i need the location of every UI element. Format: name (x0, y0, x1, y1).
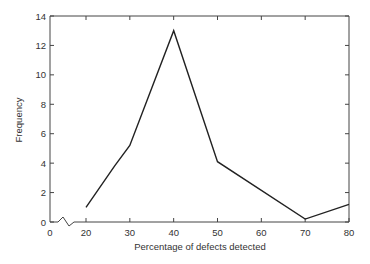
x-tick-label: 80 (344, 227, 355, 238)
frequency-line-chart: 02468101214 020304050607080 Frequency Pe… (0, 0, 370, 264)
y-tick-label: 12 (35, 40, 46, 51)
y-tick-label: 4 (41, 158, 46, 169)
y-tick-label: 8 (41, 99, 46, 110)
x-tick-label: 50 (212, 227, 223, 238)
y-tick-label: 10 (35, 69, 46, 80)
x-tick-label: 70 (300, 227, 311, 238)
y-axis-label: Frequency (13, 97, 24, 142)
x-axis-label: Percentage of defects detected (134, 241, 266, 252)
x-tick-label: 40 (168, 227, 179, 238)
x-axis-ticks: 020304050607080 (47, 16, 354, 238)
y-tick-label: 6 (41, 128, 46, 139)
y-tick-label: 0 (41, 217, 46, 228)
frequency-line (86, 31, 349, 219)
data-series (86, 31, 349, 219)
x-tick-label: 0 (47, 227, 52, 238)
x-tick-label: 60 (256, 227, 267, 238)
y-axis-ticks: 02468101214 (35, 11, 349, 228)
y-tick-label: 2 (41, 187, 46, 198)
x-tick-label: 30 (125, 227, 136, 238)
x-tick-label: 20 (81, 227, 92, 238)
y-tick-label: 14 (35, 11, 46, 22)
